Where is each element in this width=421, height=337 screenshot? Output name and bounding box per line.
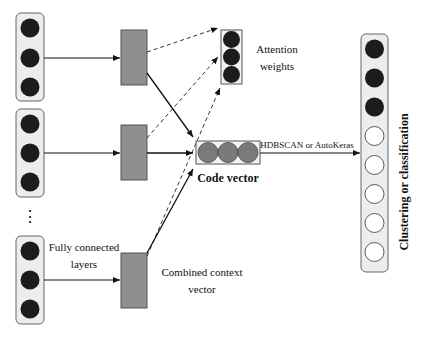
clustering-classification-label: Clustering or classification: [397, 113, 411, 250]
code-vector-label: Code vector: [197, 171, 259, 185]
dashed-arrow-fc2-to-attention: [147, 57, 218, 138]
output-node-filled: [365, 40, 384, 59]
code-node: [198, 143, 218, 163]
output-node-empty: [365, 243, 384, 262]
code-node: [238, 143, 258, 163]
code-node: [218, 143, 238, 163]
arrow-fc1-to-code: [147, 73, 193, 137]
input-node: [21, 300, 40, 319]
fully-connected-label-line2: layers: [71, 258, 97, 270]
dashed-arrow-fc1-to-attention: [147, 28, 218, 52]
ellipsis: ⋮: [22, 208, 38, 225]
attention-architecture-diagram: ⋮ Fully connected layers Attention weigh…: [0, 0, 421, 337]
input-group-3: [16, 236, 44, 324]
combined-context-label: Combined context: [162, 266, 243, 278]
fc-layer-2: [121, 125, 147, 180]
input-node: [21, 271, 40, 290]
input-node: [21, 144, 40, 163]
output-layer: [361, 34, 388, 272]
input-node: [21, 173, 40, 192]
attention-weights-label: Attention: [256, 43, 298, 55]
input-group-2: [16, 109, 44, 197]
output-node-empty: [365, 127, 384, 146]
hdbscan-label: HDBSCAN or AutoKeras: [260, 140, 354, 150]
input-node: [21, 78, 40, 97]
fc-layer-3: [121, 253, 147, 308]
code-vector-box: [196, 141, 260, 164]
input-node: [21, 49, 40, 68]
output-node-filled: [365, 69, 384, 88]
input-node: [21, 115, 40, 134]
output-node-empty: [365, 185, 384, 204]
attention-node: [223, 66, 240, 83]
output-node-empty: [365, 156, 384, 175]
input-node: [21, 242, 40, 261]
attention-node: [223, 31, 240, 48]
output-node-filled: [365, 98, 384, 117]
attention-weights-box: [221, 30, 242, 84]
output-node-empty: [365, 214, 384, 233]
combined-context-label-line2: vector: [188, 283, 216, 295]
fully-connected-label: Fully connected: [49, 241, 120, 253]
input-node: [21, 19, 40, 38]
attention-node: [223, 49, 240, 66]
input-group-1: [16, 13, 44, 101]
arrow-fc3-to-code: [147, 169, 193, 253]
fc-layer-1: [121, 30, 147, 85]
attention-weights-label-line2: weights: [260, 60, 294, 72]
